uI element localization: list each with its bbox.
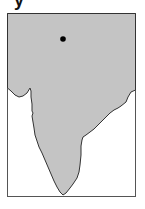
map — [0, 0, 145, 209]
location-marker-dot — [60, 36, 66, 42]
